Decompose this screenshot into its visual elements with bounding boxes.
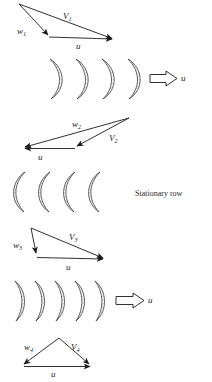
triangle-2-blade-speed-label: u [38, 152, 43, 162]
moving-row-2-motion-label: u [148, 295, 153, 305]
triangle-1-blade-speed-label: u [76, 41, 81, 51]
triangle-3-blade-speed-label: u [66, 262, 71, 272]
triangle-4-blade-speed-label: u [51, 369, 56, 379]
moving-row-1-motion-label: u [181, 73, 186, 83]
velocity-triangle-blade-diagram: V1 w1 u u w2 V2 u [0, 0, 212, 382]
stationary-row-label: Stationary row [135, 189, 183, 198]
